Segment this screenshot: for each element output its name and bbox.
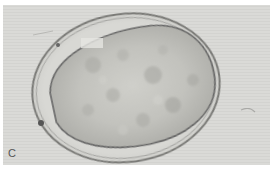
panel-label: C [8,148,16,159]
micrograph-panel: C [3,5,270,165]
egg-illustration [3,5,270,165]
